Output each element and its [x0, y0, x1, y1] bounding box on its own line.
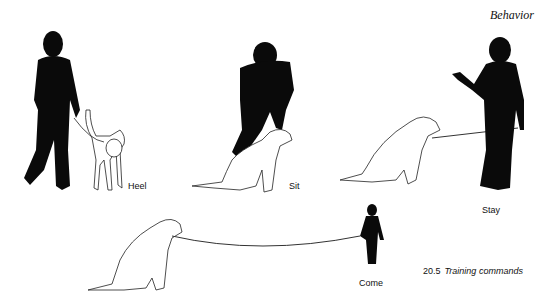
heel-person-silhouette	[24, 31, 80, 190]
come-leash	[172, 236, 360, 246]
heel-dog	[74, 110, 125, 190]
stay-person-silhouette	[452, 37, 524, 190]
training-commands-illustration	[0, 0, 548, 306]
stay-dog	[340, 117, 440, 184]
sit-label: Sit	[289, 181, 300, 191]
figure-caption-text: Training commands	[445, 266, 523, 276]
heel-label: Heel	[128, 181, 147, 191]
come-label: Come	[359, 278, 383, 288]
figure-number: 20.5	[423, 266, 441, 276]
stay-label: Stay	[482, 205, 500, 215]
come-person-silhouette	[360, 204, 384, 264]
come-dog	[88, 219, 182, 290]
figure-caption: 20.5Training commands	[423, 266, 523, 276]
